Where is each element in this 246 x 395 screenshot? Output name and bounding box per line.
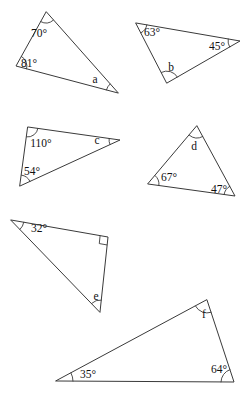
angle-d-arc bbox=[189, 135, 202, 138]
angle-c-arc bbox=[109, 138, 110, 144]
triangle-5: 32°e bbox=[11, 220, 108, 312]
angle-32-arc bbox=[20, 222, 24, 229]
angle-110-label: 110° bbox=[30, 137, 52, 149]
angle-63-label: 63° bbox=[144, 26, 161, 38]
angle-64-label: 64° bbox=[211, 363, 228, 375]
triangle-1-outline bbox=[16, 12, 118, 93]
angle-70-label: 70° bbox=[31, 27, 48, 39]
angle-70-arc bbox=[41, 20, 54, 23]
triangle-1: 70°81°a bbox=[16, 12, 118, 93]
triangle-3: 110°c54° bbox=[20, 127, 120, 186]
angle-67-label: 67° bbox=[161, 171, 178, 183]
angle-a-arc bbox=[106, 84, 110, 90]
angle-e-label: e bbox=[93, 290, 98, 302]
angle-c-label: c bbox=[94, 134, 99, 146]
angle-f-label: f bbox=[202, 308, 206, 320]
angle-a-label: a bbox=[92, 73, 97, 85]
angle-54-label: 54° bbox=[24, 165, 41, 177]
triangle-diagram-canvas: 70°81°a63°45°b110°c54°d47°67°32°ef64°35° bbox=[0, 0, 246, 395]
angle-35-arc bbox=[71, 373, 73, 381]
angle-b-label: b bbox=[168, 61, 174, 73]
angle-d-label: d bbox=[191, 140, 197, 152]
triangle-2: 63°45°b bbox=[136, 23, 240, 83]
triangle-4: d47°67° bbox=[148, 126, 235, 196]
triangle-worksheet: 70°81°a63°45°b110°c54°d47°67°32°ef64°35° bbox=[0, 0, 246, 395]
angle-67-arc bbox=[155, 176, 159, 186]
angle-45-arc bbox=[228, 39, 230, 47]
angle-32-label: 32° bbox=[31, 222, 48, 234]
triangle-6: f64°35° bbox=[56, 300, 234, 382]
angle-45-label: 45° bbox=[209, 40, 226, 52]
angle-81-label: 81° bbox=[21, 57, 38, 69]
angle-35-label: 35° bbox=[80, 368, 97, 380]
angle-47-label: 47° bbox=[211, 183, 228, 195]
